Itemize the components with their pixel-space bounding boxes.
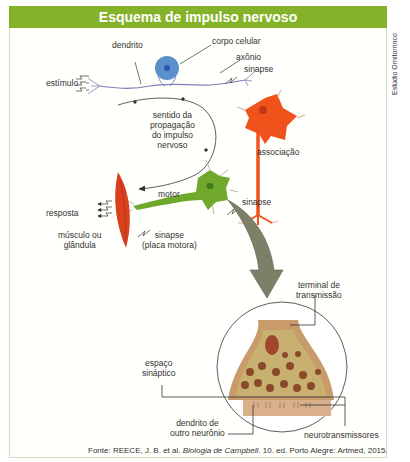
label-transmission-terminal: terminal de transmissão [296, 280, 342, 300]
sensory-neuron [88, 45, 254, 94]
label-response: resposta [46, 208, 79, 218]
label-association: associação [257, 147, 300, 157]
synapse-detail [162, 295, 347, 434]
label-propagation-direction: sentido da propagação do impulso nervoso [150, 110, 195, 150]
label-synapse-mid: sinapse [242, 197, 271, 207]
label-stimulus: estímulo [46, 78, 78, 88]
response-icon [98, 201, 112, 218]
label-synaptic-space: espaço sináptico [142, 358, 176, 378]
label-motor-synapse: sinapse (placa motora) [142, 230, 197, 250]
label-axon: axônio [236, 52, 261, 62]
zoom-arrow-icon [228, 200, 283, 298]
label-other-neuron-dendrite: dendrito de outro neurônio [170, 418, 225, 438]
label-synapse-top: sinapse [244, 64, 273, 74]
label-cell-body: corpo celular [212, 36, 261, 46]
label-motor: motor [158, 189, 180, 199]
source-citation: Fonte: REECE, J. B. et al. Biologia de C… [88, 446, 388, 455]
label-muscle-gland: músculo ou glândula [58, 230, 101, 250]
label-neurotransmitters: neurotransmissores [304, 430, 379, 440]
label-dendrite: dendrito [112, 40, 143, 50]
